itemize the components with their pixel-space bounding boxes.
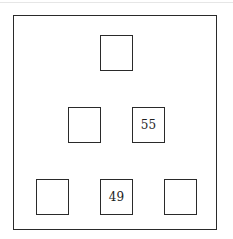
pyramid-cell-r3c3 [164, 179, 197, 215]
top-rule [0, 2, 233, 3]
pyramid-cell-r2c2: 55 [132, 107, 165, 143]
pyramid-cell-r3c1 [36, 179, 69, 215]
pyramid-cell-r3c2: 49 [100, 179, 133, 215]
pyramid-cell-r1c1 [100, 35, 133, 71]
pyramid-cell-r2c1 [68, 107, 101, 143]
